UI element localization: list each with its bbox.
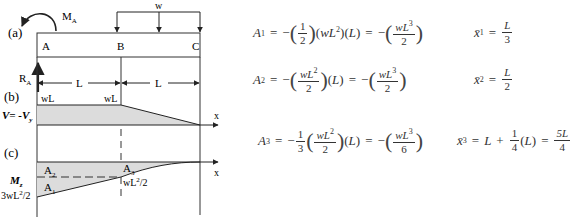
moment-ma-label: MA: [62, 10, 77, 25]
equation-a3: A3 =− 13 ( wL22 ) (L) =− ( wL36 ): [258, 128, 423, 155]
moment-value-b: wL2/2: [123, 176, 148, 188]
shear-axis-label: V= -Vy: [2, 109, 33, 124]
centroid-x3: x̄3 = L+ 14 (L) = 5L4: [457, 128, 571, 153]
beam-diagram: A B C (a) MA w RA L L (b) x wL wL V= -Vy…: [0, 0, 230, 217]
equation-a1: A1 =− ( 12 ) (wL2)(L) =− ( wL32 ): [253, 20, 423, 47]
panel-label-a: (a): [8, 25, 22, 40]
load-w-label: w: [155, 0, 163, 11]
span-label-2: L: [155, 77, 162, 89]
beam: A B C: [37, 33, 200, 57]
centroid-x2: x̄2 = L2: [474, 67, 513, 92]
panel-label-c: (c): [4, 145, 18, 160]
shear-value-b: wL: [104, 93, 117, 104]
point-c-label: C: [192, 40, 199, 52]
moment-value-left: 3wL2/2: [1, 189, 31, 201]
point-b-label: B: [117, 40, 124, 52]
moment-area: [37, 162, 200, 197]
panel-label-b: (b): [4, 89, 19, 104]
moment-ma-arrow-icon: [22, 14, 56, 31]
shear-value-left: wL: [41, 93, 54, 104]
moment-x-label: x: [214, 167, 219, 178]
point-a-label: A: [42, 40, 50, 52]
reaction-ra-label: RA: [19, 72, 31, 87]
centroid-x1: x̄1 = L3: [474, 20, 513, 45]
equation-a2: A2 =− ( wL22 ) (L) =− ( wL32 ): [253, 67, 407, 94]
moment-axis-label: Mz: [9, 174, 23, 189]
shear-x-label: x: [214, 110, 219, 121]
span-label-1: L: [76, 77, 83, 89]
distributed-load-icon: [117, 12, 200, 32]
shear-area: [37, 105, 200, 125]
